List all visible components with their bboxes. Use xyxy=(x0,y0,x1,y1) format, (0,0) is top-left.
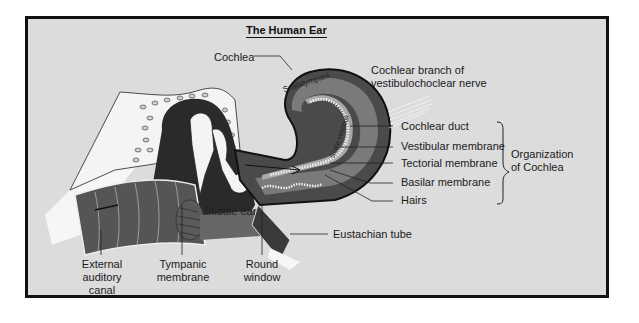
label-round-line1: Round xyxy=(238,258,286,271)
label-vestibular-membrane: Vestibular membrane xyxy=(401,140,505,153)
organization-brace xyxy=(497,122,509,204)
label-cochlea: Cochlea xyxy=(214,51,254,64)
label-tympanic-membrane: Tympanic membrane xyxy=(155,258,211,284)
label-eustachian-tube: Eustachian tube xyxy=(333,228,412,241)
label-hairs: Hairs xyxy=(401,194,427,207)
label-external-line2: auditory xyxy=(76,271,128,284)
label-nerve-line1: Cochlear branch of xyxy=(371,64,464,77)
label-external-line3: canal xyxy=(76,284,128,297)
label-external-line1: External xyxy=(76,258,128,271)
label-tympanic-line2: membrane xyxy=(155,271,211,284)
label-external-auditory-canal: External auditory canal xyxy=(76,258,128,297)
label-nerve-line2: vestibulochoclear nerve xyxy=(371,77,487,90)
label-tectorial-membrane: Tectorial membrane xyxy=(401,157,498,170)
tympanic-membrane xyxy=(176,200,204,240)
label-organization-line1: Organization xyxy=(511,148,573,161)
label-round-line2: window xyxy=(238,271,286,284)
label-organization-line2: of Cochlea xyxy=(511,161,564,174)
label-round-window: Round window xyxy=(238,258,286,284)
diagram-title: The Human Ear xyxy=(246,24,327,38)
label-basilar-membrane: Basilar membrane xyxy=(401,176,490,189)
label-middle-ear: Middle ear xyxy=(205,205,256,218)
label-cochlear-duct: Cochlear duct xyxy=(401,120,469,133)
label-tympanic-line1: Tympanic xyxy=(155,258,211,271)
